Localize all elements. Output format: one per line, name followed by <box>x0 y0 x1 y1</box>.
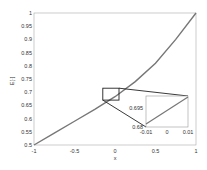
x-tick-label: 0 <box>113 148 116 154</box>
inset-xtick: 0.01 <box>183 129 194 135</box>
y-tick-label: 0.85 <box>21 50 32 56</box>
y-tick-label: 0.75 <box>21 76 32 82</box>
inset-ytick: 0.695 <box>129 105 143 111</box>
y-tick-label: 0.9 <box>24 36 32 42</box>
y-tick-label: 0.55 <box>21 129 32 135</box>
y-tick-label: 0.65 <box>21 102 32 108</box>
y-tick-label: 0.95 <box>21 23 32 29</box>
y-tick-label: 1 <box>29 10 32 16</box>
y-axis-ticks: 0.50.550.60.650.70.750.80.850.90.951 <box>21 10 32 148</box>
x-tick-label: 1 <box>194 148 197 154</box>
inset-xtick: -0.01 <box>140 129 153 135</box>
x-tick-label: -1 <box>32 148 37 154</box>
chart: 0.50.550.60.650.70.750.80.850.90.951 -1-… <box>0 0 207 170</box>
y-tick-label: 0.7 <box>24 89 32 95</box>
x-axis-label: x <box>114 155 117 161</box>
x-tick-label: 0.5 <box>152 148 160 154</box>
inset-xtick: 0 <box>165 129 168 135</box>
y-axis-label: E[·] <box>9 76 15 85</box>
y-tick-label: 0.8 <box>24 63 32 69</box>
x-tick-label: -0.5 <box>70 148 79 154</box>
x-axis-ticks: -1-0.500.51 <box>32 148 198 154</box>
y-tick-label: 0.6 <box>24 116 32 122</box>
